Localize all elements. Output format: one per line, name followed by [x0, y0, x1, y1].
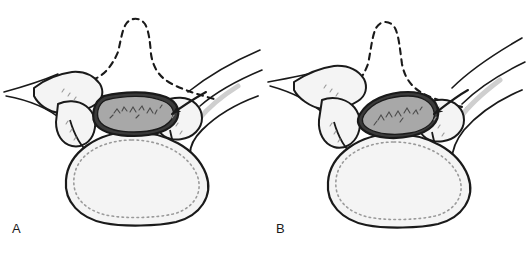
panel-a: A: [0, 0, 264, 253]
vertebra-diagram-b: [264, 0, 528, 253]
spinal-canal-lumen-a: [98, 96, 174, 132]
figure-root: A: [0, 0, 529, 253]
panel-a-label: A: [12, 222, 21, 235]
vertebra-diagram-a: [0, 0, 264, 253]
panel-b-label: B: [276, 222, 285, 235]
left-superior-articular-process-a: [56, 101, 95, 146]
panel-b: B: [264, 0, 528, 253]
